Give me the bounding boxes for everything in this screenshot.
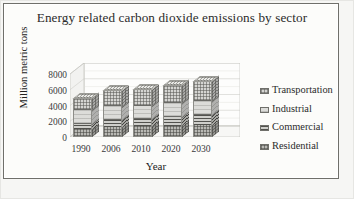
bar-segment-industrial[interactable] — [164, 102, 181, 116]
bar-group[interactable] — [193, 63, 212, 137]
x-axis-tick-label: 1990 — [67, 143, 95, 154]
bar-segment-industrial[interactable] — [194, 100, 211, 114]
bar-segment-industrial[interactable] — [134, 105, 151, 118]
bar-segment-transportation[interactable] — [104, 90, 121, 106]
bar-side-face — [92, 93, 99, 137]
bar-front-face — [163, 85, 182, 137]
x-axis-tick-label: 2030 — [187, 143, 215, 154]
bar-segment-transportation[interactable] — [194, 80, 211, 100]
legend-swatch-industrial-icon — [260, 107, 269, 113]
bar-side-face — [152, 84, 159, 137]
bar-segment-transportation[interactable] — [74, 97, 91, 109]
bar-segment-commercial[interactable] — [164, 116, 181, 125]
bar-segment-residential[interactable] — [134, 126, 151, 136]
y-axis-tick-label: 2000 — [33, 118, 67, 127]
bar-segment-commercial[interactable] — [194, 114, 211, 125]
legend-label: Residential — [272, 140, 319, 151]
plot-area — [70, 63, 240, 137]
legend-item[interactable]: Transportation — [260, 84, 340, 103]
y-axis-tick-label: 6000 — [33, 87, 67, 96]
legend-label: Industrial — [272, 103, 312, 114]
bar-group[interactable] — [163, 63, 182, 137]
bar-group[interactable] — [73, 63, 92, 137]
bar-segment-transportation[interactable] — [164, 84, 181, 102]
legend-label: Transportation — [272, 84, 333, 95]
bar-segment-residential[interactable] — [164, 126, 181, 136]
bar-segment-commercial[interactable] — [74, 123, 91, 129]
legend-item[interactable]: Commercial — [260, 121, 340, 140]
x-axis-title: Year — [66, 160, 246, 172]
bar-segment-transportation[interactable] — [134, 89, 151, 105]
chart-title: Energy related carbon dioxide emissions … — [4, 10, 340, 26]
bar-front-face — [133, 90, 152, 137]
chart-frame: Energy related carbon dioxide emissions … — [3, 3, 339, 179]
bar-series-layer — [70, 63, 240, 137]
x-axis-tick-labels: 19902006201020202030 — [66, 143, 246, 155]
x-axis-tick-label: 2006 — [97, 143, 125, 154]
bar-segment-residential[interactable] — [74, 129, 91, 136]
bar-segment-residential[interactable] — [194, 125, 211, 136]
chart-legend: TransportationIndustrialCommercialReside… — [260, 84, 340, 158]
legend-item[interactable]: Residential — [260, 140, 340, 159]
y-axis-tick-label: 8000 — [33, 71, 67, 80]
legend-item[interactable]: Industrial — [260, 103, 340, 122]
y-axis-tick-labels: 80006000400020000 — [31, 64, 67, 140]
legend-label: Commercial — [272, 121, 323, 132]
x-axis-tick-label: 2010 — [127, 143, 155, 154]
y-axis-title: Million metric tons — [18, 13, 29, 123]
bar-side-face — [182, 80, 189, 137]
bar-segment-commercial[interactable] — [104, 119, 121, 127]
bar-segment-industrial[interactable] — [74, 109, 91, 122]
legend-swatch-transportation-icon — [260, 88, 269, 94]
legend-swatch-commercial-icon — [260, 125, 269, 131]
bar-segment-industrial[interactable] — [104, 105, 121, 118]
x-axis-tick-label: 2020 — [157, 143, 185, 154]
page-root: Energy related carbon dioxide emissions … — [0, 0, 354, 199]
bar-side-face — [122, 85, 129, 137]
bar-group[interactable] — [133, 63, 152, 137]
bar-segment-residential[interactable] — [104, 127, 121, 136]
bar-group[interactable] — [103, 63, 122, 137]
bar-front-face — [73, 98, 92, 137]
bar-segment-commercial[interactable] — [134, 118, 151, 126]
bar-front-face — [193, 81, 212, 137]
legend-swatch-residential-icon — [260, 144, 269, 150]
bar-side-face — [212, 76, 219, 137]
y-axis-tick-label: 4000 — [33, 103, 67, 112]
bar-front-face — [103, 91, 122, 137]
y-axis-tick-label: 0 — [33, 134, 67, 143]
